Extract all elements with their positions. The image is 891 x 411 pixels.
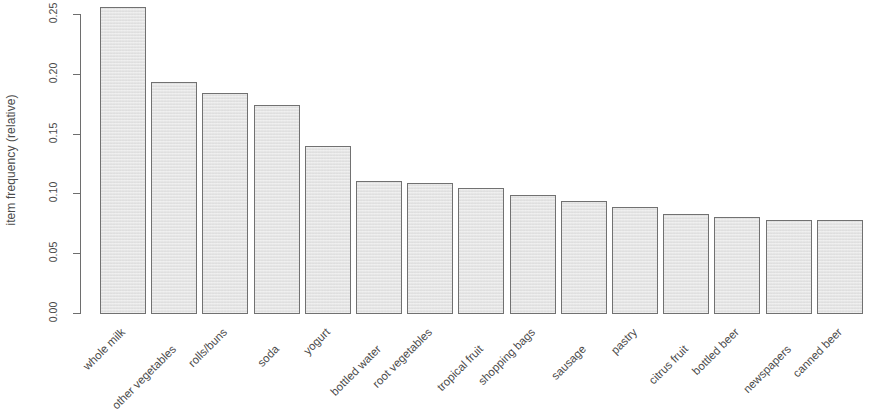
- y-axis-tick-label: 0.05: [38, 246, 68, 260]
- x-axis-tick-label: whole milk: [0, 326, 127, 411]
- y-axis-tick-mark: [73, 253, 81, 254]
- y-axis-tick-label: 0.20: [38, 67, 68, 81]
- bar: [356, 181, 402, 314]
- y-axis-tick-mark: [73, 14, 81, 15]
- plot-area: [81, 0, 891, 314]
- bar: [817, 220, 863, 314]
- y-axis-tick-mark: [73, 193, 81, 194]
- y-axis-tick-mark: [73, 134, 81, 135]
- bar: [458, 188, 504, 314]
- y-axis-tick-mark: [73, 74, 81, 75]
- y-axis-tick-label: 0.15: [38, 127, 68, 141]
- bar: [612, 207, 658, 314]
- x-axis-labels: whole milkother vegetablesrolls/bunssoda…: [81, 314, 891, 411]
- bar: [202, 93, 248, 314]
- y-axis-tick-label: 0.10: [38, 186, 68, 200]
- bar: [766, 220, 812, 314]
- bar: [254, 105, 300, 314]
- y-axis-tick-label: 0.00: [38, 306, 68, 320]
- item-frequency-bar-chart: item frequency (relative) 0.000.050.100.…: [0, 0, 891, 411]
- bar: [407, 183, 453, 314]
- bar: [151, 82, 197, 314]
- bar: [561, 201, 607, 314]
- y-axis-label-text: item frequency (relative): [4, 94, 18, 225]
- y-axis-tick-label: 0.25: [38, 7, 68, 21]
- bar: [510, 195, 556, 314]
- bar: [663, 214, 709, 314]
- y-axis-tick-mark: [73, 313, 81, 314]
- bar: [714, 217, 760, 314]
- y-axis-label: item frequency (relative): [0, 0, 22, 320]
- bar: [305, 146, 351, 314]
- bar: [100, 7, 146, 314]
